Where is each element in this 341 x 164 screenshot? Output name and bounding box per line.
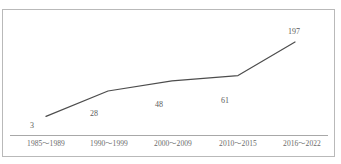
data-label-point-2: 28 bbox=[90, 109, 98, 118]
chart-figure: 3 28 48 61 197 1985〜1989 1990〜1999 2000〜… bbox=[0, 0, 341, 164]
x-tick-label-3: 2000〜2009 bbox=[138, 139, 208, 149]
x-tick-label-4: 2010〜2015 bbox=[203, 139, 273, 149]
data-label-point-5: 197 bbox=[288, 27, 300, 36]
data-label-point-1: 3 bbox=[30, 121, 34, 130]
data-label-point-3: 48 bbox=[155, 100, 163, 109]
x-tick-label-1: 1985〜1989 bbox=[11, 139, 81, 149]
data-label-point-4: 61 bbox=[221, 96, 229, 105]
x-tick-label-2: 1990〜1999 bbox=[74, 139, 144, 149]
x-tick-label-5: 2016〜2022 bbox=[267, 139, 337, 149]
data-series-line bbox=[46, 42, 295, 116]
